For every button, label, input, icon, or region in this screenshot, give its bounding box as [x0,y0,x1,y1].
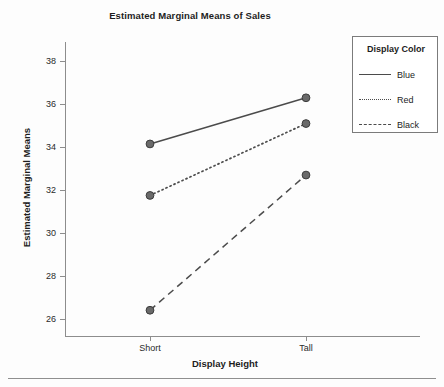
series-line-blue [150,98,306,144]
data-point-blue-short[interactable] [146,140,154,148]
legend-label-black: Black [391,120,419,130]
x-axis-title: Display Height [65,358,385,369]
data-point-red-tall[interactable] [302,120,310,128]
legend-label-red: Red [391,95,414,105]
y-axis-title: Estimated Marginal Means [21,88,32,288]
page-divider [8,378,436,379]
legend-title: Display Color [353,44,439,54]
legend-swatch-dashed-icon [359,120,391,130]
legend: Display Color Blue Red Black [352,36,438,133]
legend-swatch-dotted-icon [359,95,391,105]
data-point-black-short[interactable] [146,306,154,314]
legend-item-blue[interactable]: Blue [359,68,437,82]
legend-label-blue: Blue [391,70,415,80]
data-point-blue-tall[interactable] [302,94,310,102]
chart-page: Estimated Marginal Means of Sales 262830… [0,0,444,387]
series-line-black [150,175,306,310]
data-point-red-short[interactable] [146,192,154,200]
legend-swatch-solid-icon [359,70,391,80]
data-point-black-tall[interactable] [302,171,310,179]
legend-item-black[interactable]: Black [359,118,437,132]
series-line-red [150,124,306,196]
legend-item-red[interactable]: Red [359,93,437,107]
